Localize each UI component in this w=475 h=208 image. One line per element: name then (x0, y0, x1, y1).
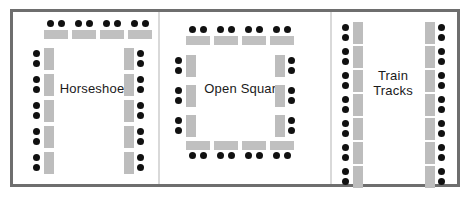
table-open-square (242, 141, 266, 150)
table-train-tracks (353, 22, 363, 44)
chair-open-square (288, 97, 295, 104)
chair-open-square (245, 26, 252, 33)
table-open-square (270, 36, 294, 45)
chair-horseshoe (58, 20, 65, 27)
chair-horseshoe (137, 102, 144, 109)
chair-train-tracks (342, 178, 349, 185)
chair-train-tracks (438, 24, 445, 31)
table-horseshoe (44, 74, 54, 96)
panel-label-train-tracks: Train Tracks (362, 68, 424, 98)
table-open-square (275, 85, 285, 107)
table-train-tracks (425, 46, 435, 68)
chair-open-square (228, 152, 235, 159)
chair-train-tracks (342, 168, 349, 175)
chair-horseshoe (86, 20, 93, 27)
table-horseshoe (124, 74, 134, 96)
table-train-tracks (425, 70, 435, 92)
chair-open-square (228, 26, 235, 33)
chair-open-square (189, 26, 196, 33)
chair-horseshoe (137, 164, 144, 171)
table-train-tracks (353, 166, 363, 188)
table-train-tracks (425, 142, 435, 164)
chair-open-square (175, 67, 182, 74)
table-open-square (186, 55, 196, 77)
chair-train-tracks (342, 34, 349, 41)
chair-horseshoe (137, 154, 144, 161)
panel-train-tracks[interactable]: Train Tracks (332, 0, 457, 208)
table-train-tracks (425, 94, 435, 116)
chair-train-tracks (342, 72, 349, 79)
chair-horseshoe (137, 60, 144, 67)
chair-horseshoe (33, 102, 40, 109)
chair-open-square (217, 26, 224, 33)
chair-train-tracks (438, 120, 445, 127)
chair-open-square (175, 117, 182, 124)
table-train-tracks (353, 94, 363, 116)
chair-train-tracks (342, 96, 349, 103)
chair-horseshoe (33, 112, 40, 119)
table-horseshoe (44, 48, 54, 70)
table-train-tracks (353, 118, 363, 140)
chair-open-square (175, 97, 182, 104)
chair-train-tracks (438, 96, 445, 103)
table-horseshoe (72, 30, 96, 39)
table-open-square (186, 141, 210, 150)
table-horseshoe (124, 100, 134, 122)
chair-horseshoe (33, 76, 40, 83)
table-horseshoe (124, 126, 134, 148)
chair-horseshoe (33, 128, 40, 135)
chair-train-tracks (342, 58, 349, 65)
chair-open-square (288, 87, 295, 94)
chair-train-tracks (438, 82, 445, 89)
chair-open-square (288, 57, 295, 64)
chair-horseshoe (137, 128, 144, 135)
table-open-square (186, 85, 196, 107)
chair-train-tracks (342, 24, 349, 31)
chair-horseshoe (33, 60, 40, 67)
table-train-tracks (425, 166, 435, 188)
table-open-square (270, 141, 294, 150)
table-train-tracks (425, 118, 435, 140)
table-open-square (214, 36, 238, 45)
chair-open-square (245, 152, 252, 159)
chair-open-square (200, 152, 207, 159)
chair-train-tracks (438, 178, 445, 185)
chair-horseshoe (33, 164, 40, 171)
chair-open-square (217, 152, 224, 159)
chair-horseshoe (137, 138, 144, 145)
chair-train-tracks (438, 58, 445, 65)
chair-open-square (189, 152, 196, 159)
chair-open-square (273, 152, 280, 159)
chair-open-square (288, 127, 295, 134)
chair-horseshoe (47, 20, 54, 27)
chair-open-square (175, 57, 182, 64)
chair-train-tracks (438, 106, 445, 113)
chair-horseshoe (137, 76, 144, 83)
table-horseshoe (44, 152, 54, 174)
chair-horseshoe (137, 112, 144, 119)
chair-open-square (288, 117, 295, 124)
chair-open-square (200, 26, 207, 33)
table-open-square (275, 115, 285, 137)
chair-open-square (284, 26, 291, 33)
chair-horseshoe (33, 138, 40, 145)
table-open-square (186, 115, 196, 137)
chair-train-tracks (342, 48, 349, 55)
chair-train-tracks (342, 154, 349, 161)
table-train-tracks (353, 142, 363, 164)
table-train-tracks (425, 22, 435, 44)
chair-train-tracks (438, 34, 445, 41)
chair-open-square (175, 87, 182, 94)
chair-train-tracks (438, 168, 445, 175)
chair-horseshoe (137, 86, 144, 93)
panel-label-horseshoe: Horseshoe (52, 81, 132, 96)
chair-horseshoe (103, 20, 110, 27)
table-open-square (214, 141, 238, 150)
chair-open-square (256, 152, 263, 159)
chair-open-square (273, 26, 280, 33)
chair-train-tracks (342, 82, 349, 89)
chair-train-tracks (438, 72, 445, 79)
chair-open-square (288, 67, 295, 74)
chair-open-square (256, 26, 263, 33)
table-train-tracks (353, 70, 363, 92)
